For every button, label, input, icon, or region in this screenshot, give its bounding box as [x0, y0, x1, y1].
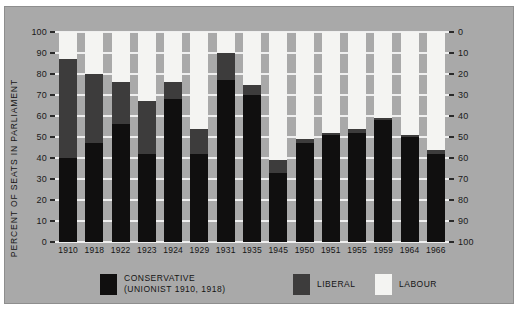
tick-mark-right: [449, 136, 454, 138]
bar-segment-conservative: [348, 133, 366, 242]
y-tick-label-right: 80: [458, 195, 484, 205]
tick-mark-right: [449, 178, 454, 180]
tick-mark-right: [449, 31, 454, 33]
bar-1922: [112, 32, 130, 242]
plot-area: 1910191819221923192419291931193519451950…: [55, 32, 449, 242]
bar-1950: [296, 32, 314, 242]
legend-swatch-labour: [375, 274, 392, 295]
bar-1935: [243, 32, 261, 242]
bar-1959: [374, 32, 392, 242]
y-tick-label-left: 20: [21, 195, 47, 205]
bar-segment-labour: [217, 32, 235, 53]
tick-mark-right: [449, 73, 454, 75]
y-tick-label-left: 80: [21, 69, 47, 79]
bar-segment-labour: [427, 32, 445, 150]
bar-1955: [348, 32, 366, 242]
tick-mark-left: [50, 73, 55, 75]
bar-segment-labour: [190, 32, 208, 129]
bar-segment-conservative: [138, 154, 156, 242]
legend-swatch-liberal: [293, 274, 310, 295]
tick-mark-right: [449, 94, 454, 96]
tick-mark-left: [50, 52, 55, 54]
bar-segment-labour: [85, 32, 103, 74]
legend-label-liberal: LIBERAL: [317, 279, 355, 290]
y-tick-label-right: 20: [458, 69, 484, 79]
x-tick-label-1966: 1966: [416, 245, 456, 255]
tick-mark-left: [50, 241, 55, 243]
bar-segment-liberal: [243, 85, 261, 96]
y-tick-label-right: 30: [458, 90, 484, 100]
y-tick-label-right: 0: [458, 27, 484, 37]
bar-segment-labour: [348, 32, 366, 129]
tick-mark-left: [50, 157, 55, 159]
legend-label-main: CONSERVATIVE: [124, 273, 226, 284]
tick-mark-right: [449, 115, 454, 117]
y-tick-label-right: 70: [458, 174, 484, 184]
legend-label-conservative: CONSERVATIVE(UNIONIST 1910, 1918): [124, 273, 226, 295]
bar-1964: [401, 32, 419, 242]
tick-mark-right: [449, 241, 454, 243]
bar-1924: [164, 32, 182, 242]
bar-segment-labour: [269, 32, 287, 160]
y-tick-label-right: 60: [458, 153, 484, 163]
tick-mark-right: [449, 220, 454, 222]
bar-segment-labour: [401, 32, 419, 135]
bar-1929: [190, 32, 208, 242]
legend-label-labour: LABOUR: [399, 279, 437, 290]
bar-segment-conservative: [427, 154, 445, 242]
bar-segment-conservative: [269, 173, 287, 242]
bar-segment-conservative: [296, 143, 314, 242]
y-tick-label-left: 90: [21, 48, 47, 58]
bar-segment-labour: [296, 32, 314, 139]
chart-panel: PERCENT OF SEATS IN PARLIAMENT 191019181…: [4, 6, 514, 304]
tick-mark-left: [50, 199, 55, 201]
bar-1931: [217, 32, 235, 242]
bar-segment-liberal: [85, 74, 103, 143]
tick-mark-left: [50, 94, 55, 96]
bar-segment-liberal: [190, 129, 208, 154]
y-tick-label-left: 40: [21, 153, 47, 163]
bar-segment-conservative: [112, 124, 130, 242]
bar-1951: [322, 32, 340, 242]
y-tick-label-left: 0: [21, 237, 47, 247]
tick-mark-left: [50, 178, 55, 180]
bar-segment-labour: [112, 32, 130, 82]
tick-mark-left: [50, 136, 55, 138]
bar-segment-labour: [374, 32, 392, 118]
y-axis-label: PERCENT OF SEATS IN PARLIAMENT: [9, 79, 19, 257]
tick-mark-left: [50, 115, 55, 117]
chart-root: PERCENT OF SEATS IN PARLIAMENT 191019181…: [0, 0, 518, 310]
bar-1918: [85, 32, 103, 242]
bar-segment-liberal: [164, 82, 182, 99]
legend: CONSERVATIVE(UNIONIST 1910, 1918)LIBERAL…: [55, 273, 449, 303]
bar-segment-labour: [243, 32, 261, 85]
bar-segment-liberal: [59, 59, 77, 158]
legend-label-main: LIBERAL: [317, 279, 355, 290]
tick-mark-right: [449, 157, 454, 159]
tick-mark-left: [50, 220, 55, 222]
tick-mark-left: [50, 31, 55, 33]
bar-segment-labour: [59, 32, 77, 59]
bar-segment-conservative: [401, 137, 419, 242]
y-tick-label-left: 30: [21, 174, 47, 184]
bar-segment-conservative: [243, 95, 261, 242]
bar-1945: [269, 32, 287, 242]
tick-mark-right: [449, 52, 454, 54]
y-tick-label-right: 40: [458, 111, 484, 121]
legend-label-main: LABOUR: [399, 279, 437, 290]
bar-segment-conservative: [217, 80, 235, 242]
y-tick-label-left: 10: [21, 216, 47, 226]
tick-mark-right: [449, 199, 454, 201]
bar-segment-liberal: [138, 101, 156, 154]
y-tick-label-right: 90: [458, 216, 484, 226]
legend-label-sub: (UNIONIST 1910, 1918): [124, 284, 226, 295]
bar-segment-liberal: [112, 82, 130, 124]
bar-segment-liberal: [217, 53, 235, 80]
bar-segment-conservative: [190, 154, 208, 242]
legend-swatch-conservative: [100, 274, 117, 295]
y-tick-label-right: 10: [458, 48, 484, 58]
y-tick-label-left: 50: [21, 132, 47, 142]
bar-segment-labour: [164, 32, 182, 82]
bar-1910: [59, 32, 77, 242]
y-tick-label-right: 100: [458, 237, 484, 247]
